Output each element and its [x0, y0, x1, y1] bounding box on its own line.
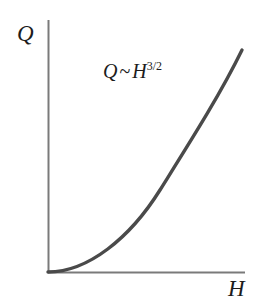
x-axis-label: H	[228, 277, 245, 300]
curve-annotation: Q~H3/2	[103, 60, 162, 81]
figure-canvas: Q H Q~H3/2	[0, 0, 258, 308]
annotation-variable: H	[132, 60, 146, 82]
annotation-exponent: 3/2	[147, 59, 162, 73]
annotation-base: Q	[103, 60, 117, 82]
plot-area	[0, 0, 258, 308]
y-axis-label: Q	[17, 22, 34, 45]
power-law-curve	[48, 50, 242, 272]
annotation-relation-symbol: ~	[117, 60, 132, 82]
